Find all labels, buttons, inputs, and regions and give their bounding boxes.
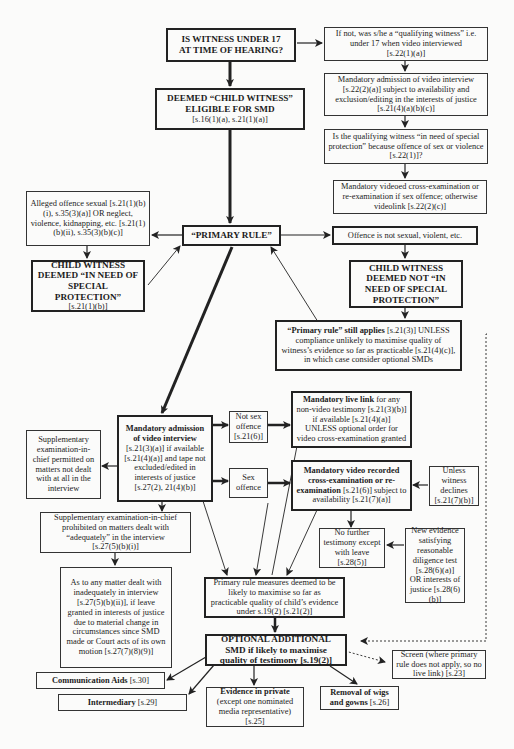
still-applies-text: “Primary rule” still applies [s.21(3)] U… [280, 326, 457, 366]
communication-aids-box: Communication Aids [s.30] [36, 672, 165, 689]
alleged-offence-box: Alleged offence sexual [s.21(1)(b)(i), s… [26, 191, 150, 246]
unless-witness-declines-box: Unless witness declines [s.21(7)(b)] [429, 466, 479, 506]
sex-offence-text: Sex offence [233, 473, 264, 493]
deemed-child-line2: ELIGIBLE FOR SMD [185, 104, 274, 115]
comm-aids-ref: [s.30] [128, 676, 149, 685]
not-in-need-special-protection-box: CHILD WITNESS DEEMED NOT “IN NEED OF SPE… [349, 260, 463, 308]
private-ref: [s.25] [245, 717, 264, 727]
primary-rule-text: “PRIMARY RULE” [191, 230, 272, 241]
private-bold: Evidence in private [220, 687, 289, 697]
video-cross-text: Mandatory video recorded cross-examinati… [296, 466, 407, 506]
wigs-ref: [s.26] [368, 698, 389, 707]
no-further-text: No further testimony except with leave [… [323, 528, 381, 568]
mandatory-video-admission-box: Mandatory admission of video interview [… [324, 73, 488, 116]
unless-declines-text: Unless witness declines [433, 466, 475, 496]
optional-line2: SMD if likely to maximise [225, 645, 327, 656]
not-in-need-title: CHILD WITNESS DEEMED NOT “IN NEED OF SPE… [354, 263, 458, 305]
evidence-in-private-box: Evidence in private (except one nominate… [206, 687, 304, 727]
mandatory-admission-video-box: Mandatory admission of video interview [… [117, 415, 213, 502]
supp-permitted-text: Supplementary examination-in-chief permi… [30, 435, 97, 494]
question-witness-under-17: IS WITNESS UNDER 17 AT TIME OF HEARING? [166, 28, 296, 62]
mandatory-live-link-box: Mandatory live link for any non-video te… [291, 391, 412, 448]
measures-deemed-text: Primary rule measures deemed to be likel… [209, 578, 340, 618]
qualifying-ref: [s.22(1)(a)] [387, 49, 425, 59]
deemed-child-ref: [s.16(1)(a), s.21(1)(a)] [192, 115, 267, 125]
under17-line1: IS WITNESS UNDER 17 [181, 34, 280, 45]
comm-aids-bold: Communication Aids [52, 676, 128, 685]
live-link-text: Mandatory live link for any non-video te… [296, 395, 407, 445]
comm-aids-text: Communication Aids [s.30] [52, 676, 149, 686]
intermediary-ref: [s.29] [136, 698, 157, 707]
supplementary-permitted-box: Supplementary examination-in-chief permi… [26, 430, 101, 499]
special-protection-question-box: Is the qualifying witness “in need of sp… [324, 129, 488, 164]
optional-line1: OPTIONAL ADDITIONAL [221, 634, 331, 645]
in-need-special-protection-box: CHILD WITNESS DEEMED “IN NEED OF SPECIAL… [31, 260, 145, 312]
mandatory-video-q-text: Mandatory admission of video interview [… [328, 75, 484, 115]
not-sex-offence-box: Not sex offence [s.21(6)] [229, 411, 268, 443]
mandatory-video-cross-box: Mandatory video recorded cross-examinati… [291, 460, 412, 511]
private-text: (except one nominated media representati… [210, 697, 300, 717]
screen-box: Screen (where primary rule does not appl… [392, 650, 486, 679]
not-sex-offence-text: Not sex offence [233, 412, 264, 432]
wigs-text: Removal of wigs and gowns [s.26] [324, 688, 395, 708]
mandatory-admission-text: Mandatory admission of video interview [… [122, 424, 208, 493]
qualifying-witness-box: If not, was s/he a “qualifying witness” … [324, 27, 488, 61]
intermediary-box: Intermediary [s.29] [58, 694, 187, 711]
in-need-ref: [s.21(1)(b)] [69, 302, 108, 312]
qualifying-text: If not, was s/he a “qualifying witness” … [328, 29, 484, 49]
mandatory-admission-rest: [s.21(3)(a)] if available [s.21(4)(a)] a… [124, 444, 205, 493]
primary-rule-box: “PRIMARY RULE” [182, 225, 281, 246]
deemed-child-line1: DEEMED “CHILD WITNESS” [167, 93, 293, 104]
supp-prohibited-text: Supplementary examination-in-chief prohi… [44, 513, 187, 543]
no-further-testimony-box: No further testimony except with leave [… [319, 528, 385, 568]
removal-of-wigs-box: Removal of wigs and gowns [s.26] [320, 686, 399, 710]
new-evidence-text: New evidence satisfying reasonable dilig… [409, 526, 461, 605]
videoed-cross-exam-box: Mandatory videoed cross-examination or r… [333, 180, 487, 214]
screen-text: Screen (where primary rule does not appl… [396, 650, 482, 680]
intermediary-bold: Intermediary [88, 698, 136, 707]
not-sexual-text: Offence is not sexual, violent, etc. [348, 231, 462, 241]
unless-declines-ref: [s.21(7)(b)] [435, 496, 474, 506]
still-applies-bold: “Primary rule” still applies [287, 326, 384, 335]
alleged-offence-text: Alleged offence sexual [s.21(1)(b)(i), s… [30, 199, 146, 239]
in-need-title: CHILD WITNESS DEEMED “IN NEED OF SPECIAL… [36, 260, 140, 302]
optional-additional-smd-box: OPTIONAL ADDITIONAL SMD if likely to max… [205, 634, 347, 666]
videoed-cross-text: Mandatory videoed cross-examination or r… [337, 182, 483, 212]
supp-prohibited-ref: [s.27(5)(b)(i)] [92, 542, 139, 552]
not-sex-offence-ref: [s.21(6)] [234, 432, 263, 442]
inadequately-dealt-box: As to any matter dealt with inadequately… [60, 567, 172, 668]
live-link-bold: Mandatory live link [303, 395, 374, 404]
primary-rule-still-applies-box: “Primary rule” still applies [s.21(3)] U… [275, 320, 462, 371]
new-evidence-box: New evidence satisfying reasonable dilig… [405, 528, 465, 603]
primary-rule-measures-box: Primary rule measures deemed to be likel… [204, 577, 345, 618]
intermediary-text: Intermediary [s.29] [88, 698, 157, 708]
under17-line2: AT TIME OF HEARING? [179, 45, 283, 56]
sex-offence-box: Sex offence [229, 468, 268, 498]
special-protection-q-text: Is the qualifying witness “in need of sp… [328, 132, 484, 162]
supplementary-prohibited-box: Supplementary examination-in-chief prohi… [40, 512, 191, 553]
inadequate-text: As to any matter dealt with inadequately… [64, 578, 168, 657]
optional-line3: quality of testimony [s.19(2)] [220, 655, 332, 666]
mandatory-admission-bold: Mandatory admission of video interview [126, 424, 204, 443]
offence-not-sexual-box: Offence is not sexual, violent, etc. [332, 226, 478, 245]
deemed-child-witness-box: DEEMED “CHILD WITNESS” ELIGIBLE FOR SMD … [155, 88, 305, 130]
